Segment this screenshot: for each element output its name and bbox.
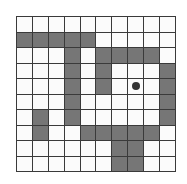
wall-cell — [112, 48, 127, 63]
wall-cell — [128, 157, 143, 172]
wall-cell — [65, 110, 80, 125]
wall-cell — [160, 79, 175, 94]
empty-cell — [17, 126, 32, 141]
empty-cell — [128, 79, 143, 94]
wall-cell — [65, 64, 80, 79]
empty-cell — [17, 17, 32, 32]
empty-cell — [96, 141, 111, 156]
empty-cell — [128, 95, 143, 110]
empty-cell — [49, 17, 64, 32]
empty-cell — [17, 141, 32, 156]
empty-cell — [81, 48, 96, 63]
wall-cell — [128, 126, 143, 141]
wall-cell — [65, 48, 80, 63]
empty-cell — [81, 64, 96, 79]
empty-cell — [96, 33, 111, 48]
empty-cell — [81, 79, 96, 94]
empty-cell — [160, 157, 175, 172]
empty-cell — [112, 110, 127, 125]
empty-cell — [96, 110, 111, 125]
empty-cell — [112, 17, 127, 32]
wall-cell — [65, 95, 80, 110]
wall-cell — [144, 48, 159, 63]
empty-cell — [65, 157, 80, 172]
empty-cell — [17, 95, 32, 110]
empty-cell — [112, 95, 127, 110]
wall-cell — [96, 48, 111, 63]
empty-cell — [33, 79, 48, 94]
empty-cell — [160, 17, 175, 32]
empty-cell — [112, 33, 127, 48]
wall-cell — [33, 126, 48, 141]
wall-cell — [96, 126, 111, 141]
empty-cell — [144, 33, 159, 48]
empty-cell — [33, 95, 48, 110]
wall-cell — [112, 126, 127, 141]
empty-cell — [33, 48, 48, 63]
empty-cell — [65, 141, 80, 156]
empty-cell — [81, 95, 96, 110]
empty-cell — [160, 33, 175, 48]
empty-cell — [17, 64, 32, 79]
empty-cell — [17, 48, 32, 63]
empty-cell — [81, 17, 96, 32]
wall-cell — [17, 33, 32, 48]
wall-cell — [96, 79, 111, 94]
wall-cell — [81, 126, 96, 141]
empty-cell — [81, 157, 96, 172]
grid-world-board — [16, 16, 176, 172]
empty-cell — [49, 95, 64, 110]
empty-cell — [17, 110, 32, 125]
empty-cell — [49, 141, 64, 156]
empty-cell — [81, 110, 96, 125]
empty-cell — [49, 48, 64, 63]
empty-cell — [128, 110, 143, 125]
wall-cell — [33, 33, 48, 48]
empty-cell — [160, 141, 175, 156]
empty-cell — [144, 157, 159, 172]
wall-cell — [96, 64, 111, 79]
empty-cell — [144, 79, 159, 94]
empty-cell — [144, 64, 159, 79]
empty-cell — [49, 79, 64, 94]
wall-cell — [160, 64, 175, 79]
empty-cell — [144, 110, 159, 125]
empty-cell — [65, 17, 80, 32]
empty-cell — [160, 126, 175, 141]
wall-cell — [33, 110, 48, 125]
empty-cell — [49, 64, 64, 79]
empty-cell — [128, 17, 143, 32]
wall-cell — [65, 79, 80, 94]
wall-cell — [160, 95, 175, 110]
empty-cell — [49, 126, 64, 141]
empty-cell — [33, 17, 48, 32]
wall-cell — [144, 126, 159, 141]
wall-cell — [81, 33, 96, 48]
empty-cell — [33, 157, 48, 172]
empty-cell — [160, 48, 175, 63]
wall-cell — [160, 110, 175, 125]
empty-cell — [112, 79, 127, 94]
empty-cell — [49, 110, 64, 125]
empty-cell — [96, 157, 111, 172]
wall-cell — [65, 33, 80, 48]
empty-cell — [144, 95, 159, 110]
empty-cell — [33, 64, 48, 79]
empty-cell — [17, 79, 32, 94]
empty-cell — [65, 126, 80, 141]
empty-cell — [17, 157, 32, 172]
empty-cell — [128, 33, 143, 48]
wall-cell — [112, 157, 127, 172]
empty-cell — [96, 17, 111, 32]
empty-cell — [128, 64, 143, 79]
empty-cell — [49, 157, 64, 172]
agent-dot-icon — [132, 82, 140, 90]
empty-cell — [144, 141, 159, 156]
empty-cell — [81, 141, 96, 156]
wall-cell — [128, 141, 143, 156]
empty-cell — [33, 141, 48, 156]
wall-cell — [128, 48, 143, 63]
wall-cell — [112, 141, 127, 156]
wall-cell — [49, 33, 64, 48]
empty-cell — [112, 64, 127, 79]
